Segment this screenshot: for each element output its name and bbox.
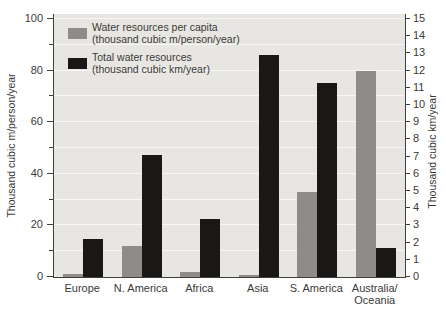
legend-label-total: Total water resources (thousand cubic km…	[92, 51, 210, 75]
right-axis-tick-label: 7	[413, 151, 437, 162]
category-label-n-america: N. America	[112, 282, 171, 294]
right-axis-tick	[405, 276, 410, 277]
category-label-africa: Africa	[170, 282, 229, 294]
bar-total-australia-oceania	[376, 248, 396, 277]
right-axis-tick-label: 8	[413, 133, 437, 144]
per-capita-swatch	[68, 28, 87, 39]
right-axis-tick-label: 2	[413, 237, 437, 248]
gridline	[54, 18, 405, 19]
right-axis-tick	[405, 121, 410, 122]
right-axis-tick-label: 12	[413, 65, 437, 76]
bar-per-capita-europe	[63, 274, 83, 277]
right-axis-tick	[405, 104, 410, 105]
legend-item-total: Total water resources (thousand cubic km…	[68, 51, 240, 75]
legend-item-per-capita: Water resources per capita (thousand cub…	[68, 21, 240, 45]
legend-line: Water resources per capita	[92, 21, 240, 33]
left-axis-tick-label: 0	[13, 271, 43, 282]
left-axis-tick	[49, 44, 53, 45]
left-axis-tick	[49, 95, 53, 96]
bar-per-capita-australia-oceania	[356, 71, 376, 277]
bar-per-capita-asia	[239, 275, 259, 277]
left-axis-tick	[47, 18, 53, 19]
right-axis-tick-label: 9	[413, 116, 437, 127]
gridline	[54, 147, 405, 148]
right-axis-tick	[405, 173, 410, 174]
right-axis-tick-label: 1	[413, 254, 437, 265]
left-axis-title: Thousand cubic m/person/year	[5, 16, 18, 276]
right-axis-tick-label: 5	[413, 185, 437, 196]
right-axis-tick-label: 10	[413, 99, 437, 110]
right-axis-tick-label: 0	[413, 271, 437, 282]
right-axis-tick	[405, 207, 410, 208]
legend-line: (thousand cubic km/year)	[92, 63, 210, 75]
left-axis-tick	[47, 121, 53, 122]
gridline	[54, 121, 405, 122]
gridline	[54, 250, 405, 251]
right-axis-tick	[405, 18, 410, 19]
category-label-australia-oceania: Australia/​Oceania	[346, 282, 405, 306]
right-axis-tick	[405, 190, 410, 191]
gridline	[54, 95, 405, 96]
left-axis-tick-label: 20	[13, 219, 43, 230]
right-axis-tick-label: 6	[413, 168, 437, 179]
right-axis-tick-label: 4	[413, 202, 437, 213]
legend-label-per-capita: Water resources per capita (thousand cub…	[92, 21, 240, 45]
category-label-asia: Asia	[229, 282, 288, 294]
left-axis-tick	[47, 224, 53, 225]
right-axis-tick	[405, 35, 410, 36]
right-axis-tick	[405, 138, 410, 139]
gridline	[54, 173, 405, 174]
bar-total-s-america	[317, 83, 337, 277]
right-axis-tick	[405, 87, 410, 88]
gridline	[54, 199, 405, 200]
water-resources-bar-chart: Thousand cubic m/person/year Thousand cu…	[0, 0, 446, 313]
category-label-s-america: S. America	[287, 282, 346, 294]
legend-line: (thousand cubic m/person/year)	[92, 33, 240, 45]
bar-total-asia	[259, 55, 279, 277]
right-axis-tick	[405, 52, 410, 53]
left-axis-tick	[47, 173, 53, 174]
left-axis-tick-label: 80	[13, 65, 43, 76]
left-axis-tick-label: 100	[13, 13, 43, 24]
left-axis-tick	[47, 276, 53, 277]
bar-per-capita-africa	[180, 272, 200, 277]
bar-per-capita-s-america	[297, 192, 317, 277]
bar-per-capita-n-america	[122, 246, 142, 277]
plot-area: Water resources per capita (thousand cub…	[53, 14, 406, 278]
right-axis-tick	[405, 70, 410, 71]
legend-line: Total water resources	[92, 51, 210, 63]
left-axis-tick	[49, 199, 53, 200]
right-axis-tick-label: 11	[413, 82, 437, 93]
left-axis-tick	[49, 250, 53, 251]
total-swatch	[68, 58, 87, 69]
right-axis-tick-label: 14	[413, 30, 437, 41]
right-axis-tick	[405, 259, 410, 260]
right-axis-tick	[405, 156, 410, 157]
right-axis-tick-label: 3	[413, 219, 437, 230]
bar-total-africa	[200, 219, 220, 277]
bar-total-n-america	[142, 155, 162, 277]
right-axis-tick-label: 15	[413, 13, 437, 24]
left-axis-tick-label: 40	[13, 168, 43, 179]
right-axis-tick	[405, 242, 410, 243]
right-axis-tick	[405, 224, 410, 225]
gridline	[54, 224, 405, 225]
category-label-europe: Europe	[53, 282, 112, 294]
right-axis-tick-label: 13	[413, 47, 437, 58]
legend: Water resources per capita (thousand cub…	[68, 21, 240, 81]
left-axis-tick	[49, 147, 53, 148]
left-axis-tick-label: 60	[13, 116, 43, 127]
bar-total-europe	[83, 239, 103, 277]
left-axis-tick	[47, 70, 53, 71]
